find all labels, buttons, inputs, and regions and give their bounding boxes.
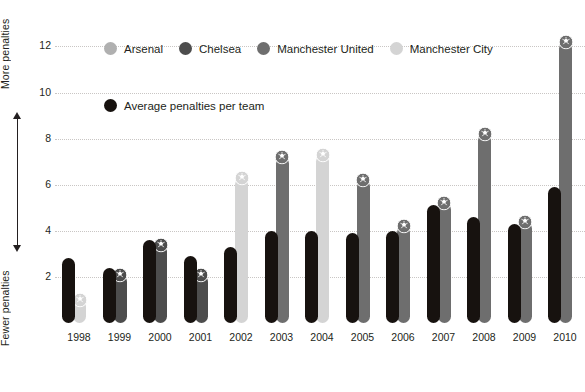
club-legend: ArsenalChelseaManchester UnitedMancheste… (104, 42, 509, 55)
bar-group[interactable] (58, 28, 100, 323)
legend-swatch-icon (179, 42, 192, 55)
y-axis-tick-label: 8 (35, 132, 51, 144)
bar-series-container (55, 28, 585, 323)
football-icon (275, 150, 290, 165)
average-bar[interactable] (103, 268, 116, 323)
bar-group[interactable] (463, 28, 505, 323)
y-axis-tick-label: 2 (35, 270, 51, 282)
average-bar[interactable] (427, 205, 440, 323)
plot-area: 24681012 1998199920002001200220032004200… (55, 28, 585, 323)
x-axis-label: 2004 (301, 331, 343, 343)
x-axis-label: 2002 (220, 331, 262, 343)
x-axis-label: 2003 (261, 331, 303, 343)
average-bar[interactable] (184, 256, 197, 323)
legend-item-average[interactable]: Average penalties per team (104, 99, 264, 112)
football-icon (477, 127, 492, 142)
bar-group[interactable] (423, 28, 465, 323)
bar-group[interactable] (301, 28, 343, 323)
bar-group[interactable] (261, 28, 303, 323)
x-axis-label: 2001 (180, 331, 222, 343)
x-axis-label: 2010 (544, 331, 585, 343)
x-axis-label: 2006 (382, 331, 424, 343)
average-bar[interactable] (224, 247, 237, 323)
average-legend: Average penalties per team (104, 99, 280, 112)
football-icon (234, 170, 249, 185)
bar-group[interactable] (382, 28, 424, 323)
more-penalties-label: More penalties (0, 6, 33, 102)
legend-swatch-icon (390, 42, 403, 55)
bar-group[interactable] (220, 28, 262, 323)
bar-group[interactable] (99, 28, 141, 323)
football-icon (315, 147, 330, 162)
double-headed-vertical-arrow-icon (16, 112, 18, 252)
legend-item-club[interactable]: Arsenal (104, 42, 163, 55)
x-axis-label: 2007 (423, 331, 465, 343)
bar-group[interactable] (504, 28, 546, 323)
penalties-bar-chart: More penalties Fewer penalties 24681012 … (0, 0, 585, 392)
x-axis-label: 1999 (99, 331, 141, 343)
football-icon (356, 173, 371, 188)
legend-label: Manchester City (410, 43, 493, 55)
y-axis-tick-label: 4 (35, 224, 51, 236)
legend-swatch-icon (104, 42, 117, 55)
x-axis-label: 1998 (58, 331, 100, 343)
average-bar[interactable] (386, 231, 399, 323)
legend-label: Chelsea (199, 43, 241, 55)
bar-group[interactable] (342, 28, 384, 323)
legend-item-club[interactable]: Chelsea (179, 42, 241, 55)
average-bar[interactable] (265, 231, 278, 323)
average-bar[interactable] (62, 258, 75, 323)
x-axis-label: 2000 (139, 331, 181, 343)
legend-swatch-icon (257, 42, 270, 55)
bar-group[interactable] (544, 28, 585, 323)
average-bar[interactable] (346, 233, 359, 323)
y-axis-tick-label: 10 (35, 86, 51, 98)
x-axis-label: 2005 (342, 331, 384, 343)
average-bar[interactable] (143, 240, 156, 323)
average-bar[interactable] (508, 224, 521, 323)
legend-label: Arsenal (124, 43, 163, 55)
legend-swatch-icon (104, 99, 117, 112)
bar-group[interactable] (139, 28, 181, 323)
x-axis-label: 2008 (463, 331, 505, 343)
fewer-penalties-label: Fewer penalties (0, 258, 33, 358)
average-bar[interactable] (467, 217, 480, 323)
y-axis-tick-label: 6 (35, 178, 51, 190)
average-bar[interactable] (548, 187, 561, 323)
legend-label: Average penalties per team (124, 100, 264, 112)
x-axis-label: 2009 (504, 331, 546, 343)
legend-item-club[interactable]: Manchester United (257, 42, 374, 55)
legend-label: Manchester United (277, 43, 374, 55)
average-bar[interactable] (305, 231, 318, 323)
football-icon (558, 34, 573, 49)
y-axis-direction-annotation: More penalties Fewer penalties (0, 0, 34, 392)
legend-item-club[interactable]: Manchester City (390, 42, 493, 55)
football-icon (396, 219, 411, 234)
y-axis-tick-label: 12 (35, 39, 51, 51)
bar-group[interactable] (180, 28, 222, 323)
